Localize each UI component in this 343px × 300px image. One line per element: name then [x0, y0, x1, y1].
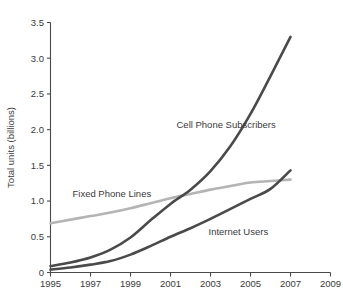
x-tick-label: 1997	[80, 278, 101, 289]
x-tick-label: 2001	[160, 278, 181, 289]
line-chart: 00.51.01.52.02.53.03.5199519971999200120…	[0, 0, 343, 300]
series-line-fixed-phone-lines	[51, 180, 291, 224]
x-tick-label: 1999	[120, 278, 141, 289]
series-label-fixed-phone-lines: Fixed Phone Lines	[73, 188, 152, 199]
series-label-cell-phone-subscribers: Cell Phone Subscribers	[177, 119, 277, 130]
chart-container: 00.51.01.52.02.53.03.5199519971999200120…	[0, 0, 343, 300]
x-tick-label: 2009	[320, 278, 341, 289]
x-tick-label: 2003	[200, 278, 221, 289]
x-tick-label: 2005	[240, 278, 261, 289]
x-tick-label: 1995	[40, 278, 61, 289]
y-tick-label: 2.0	[31, 124, 44, 135]
y-tick-label: 0.5	[31, 231, 44, 242]
y-tick-label: 0	[39, 267, 44, 278]
series-label-internet-users: Internet Users	[209, 226, 269, 237]
y-tick-label: 1.0	[31, 195, 44, 206]
y-axis-title: Total units (billions)	[5, 107, 16, 188]
x-tick-label: 2007	[280, 278, 301, 289]
series-line-internet-users	[51, 170, 291, 269]
y-tick-label: 3.5	[31, 17, 44, 28]
y-tick-label: 3.0	[31, 53, 44, 64]
y-tick-label: 2.5	[31, 88, 44, 99]
y-tick-label: 1.5	[31, 160, 44, 171]
